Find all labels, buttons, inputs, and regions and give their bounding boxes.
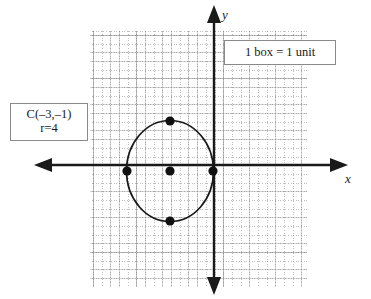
graph-figure: y x C(–3,–1) r=4 1 box = 1 unit — [0, 0, 371, 299]
center-radius-callout: C(–3,–1) r=4 — [10, 103, 88, 141]
point-right — [208, 166, 217, 175]
y-axis-arrow-down — [207, 277, 221, 295]
point-left — [122, 166, 131, 175]
x-axis — [34, 158, 348, 172]
y-axis-arrow-up — [207, 5, 221, 23]
y-axis-label: y — [222, 8, 228, 21]
point-top — [165, 116, 174, 125]
point-bottom — [165, 216, 174, 225]
point-center — [165, 166, 174, 175]
scale-callout-text: 1 box = 1 unit — [231, 45, 329, 59]
x-axis-label: x — [345, 172, 351, 185]
center-callout-radius-text: r=4 — [17, 121, 81, 135]
center-callout-center-text: C(–3,–1) — [17, 107, 81, 121]
scale-callout: 1 box = 1 unit — [224, 40, 336, 65]
x-axis-arrow-right — [330, 158, 348, 172]
x-axis-arrow-left — [34, 158, 52, 172]
